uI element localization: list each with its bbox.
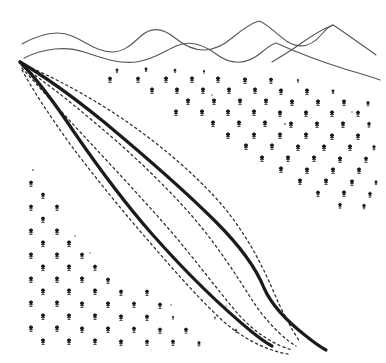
ink-speck (74, 235, 76, 237)
ink-speck (211, 94, 213, 96)
ink-speck (32, 169, 34, 171)
figure-background (0, 0, 386, 363)
ink-speck (351, 111, 353, 113)
terrain-sketch-figure: Hand-drawn terrain sketch of a forested … (0, 0, 386, 363)
ink-speck (89, 252, 90, 253)
ink-speck (225, 305, 226, 306)
terrain-canvas (0, 0, 386, 363)
ink-speck (284, 123, 286, 125)
ink-speck (170, 304, 172, 306)
